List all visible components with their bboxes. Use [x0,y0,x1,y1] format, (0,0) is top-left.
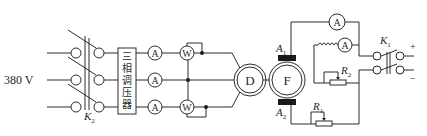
svg-text:W: W [182,48,192,59]
dc-ammeter-armature: A [329,14,345,30]
svg-text:W: W [182,102,192,113]
generator-f: F [269,55,305,105]
svg-text:器: 器 [122,99,132,110]
r1-label: R1 [312,100,324,115]
svg-text:D: D [245,73,254,88]
svg-text:压: 压 [122,87,132,98]
brush-a1 [278,55,296,61]
svg-text:A: A [341,40,349,51]
terminal-minus: − [410,73,416,84]
ac-ammeter-3: A [148,100,162,114]
rheostat-r2 [314,72,359,85]
terminal-plus: + [410,41,416,52]
three-phase-regulator: 三 相 调 压 器 [118,48,136,114]
supply-lines [47,53,71,107]
svg-text:调: 调 [122,75,132,86]
ac-ammeter-2: A [148,73,162,87]
k1-switch [373,50,414,74]
svg-text:相: 相 [122,62,132,74]
wattmeter-2: W [180,100,232,117]
circuit-diagram: 380 V K2 三 相 调 压 器 A [0,0,427,136]
supply-voltage-label: 380 V [4,73,34,87]
regulator-output-lines [136,53,148,107]
ac-ammeter-1: A [148,46,162,60]
svg-text:A: A [151,102,159,113]
brush-a1-label: A1 [275,42,287,57]
k2-label: K2 [83,110,95,125]
r2-label: R2 [340,64,352,79]
wattmeter-1: W [180,43,232,60]
brush-a2-label: A2 [275,106,287,121]
svg-text:三: 三 [122,51,132,62]
brush-a2 [278,99,296,105]
motor-d: D [234,64,266,96]
k2-switch [68,30,118,112]
svg-text:A: A [151,75,159,86]
svg-text:A: A [333,17,341,28]
field-winding [314,43,338,83]
svg-text:F: F [283,73,290,88]
svg-text:A: A [151,48,159,59]
k1-label: K1 [379,34,391,49]
dc-ammeter-field: A [338,38,352,52]
